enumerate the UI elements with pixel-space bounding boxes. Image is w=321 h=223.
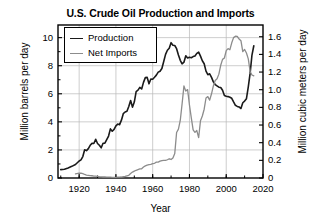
x-tick-1920: 1920: [59, 183, 99, 194]
chart-figure: U.S. Crude Oil Production and Imports Mi…: [0, 0, 321, 223]
y-right-tick-1.6: 1.6: [268, 31, 294, 42]
x-axis-title: Year: [58, 203, 263, 214]
y-right-tick-0.8: 0.8: [268, 101, 294, 112]
y-left-tick-4: 4: [31, 116, 53, 127]
legend-label-net-imports: Net Imports: [88, 48, 137, 58]
x-tick-1980: 1980: [169, 183, 209, 194]
y-left-tick-6: 6: [31, 88, 53, 99]
y-left-tick-0: 0: [31, 172, 53, 183]
chart-legend: Production Net Imports: [64, 27, 157, 63]
x-tick-1960: 1960: [133, 183, 173, 194]
x-tick-2000: 2000: [206, 183, 246, 194]
legend-label-production: Production: [88, 33, 133, 43]
legend-item-production: Production: [70, 31, 133, 45]
y-axis-right-title: Million cubic meters per day: [297, 12, 308, 172]
y-right-tick-0.2: 0.2: [268, 154, 294, 165]
y-left-tick-8: 8: [31, 60, 53, 71]
y-left-tick-2: 2: [31, 144, 53, 155]
y-axis-left-title: Million barrels per day: [19, 12, 30, 172]
x-tick-2020: 2020: [243, 183, 283, 194]
y-right-tick-0.4: 0.4: [268, 137, 294, 148]
y-right-tick-0: 0: [268, 172, 294, 183]
x-tick-1940: 1940: [96, 183, 136, 194]
legend-swatch-production: [70, 38, 83, 39]
legend-swatch-net-imports: [70, 53, 83, 54]
y-right-tick-0.6: 0.6: [268, 119, 294, 130]
legend-item-net-imports: Net Imports: [70, 46, 137, 60]
y-right-tick-1.4: 1.4: [268, 48, 294, 59]
y-right-tick-1.0: 1.0: [268, 84, 294, 95]
y-left-tick-10: 10: [31, 32, 53, 43]
y-right-tick-1.2: 1.2: [268, 66, 294, 77]
